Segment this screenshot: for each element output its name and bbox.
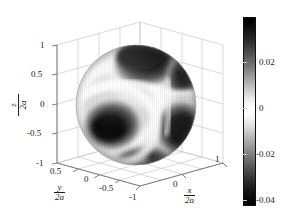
surface-plot-3d (0, 0, 283, 222)
z-tick-neg0p5: -0.5 (27, 129, 41, 138)
colorbar-tickmark-0p02 (243, 62, 247, 63)
colorbar-label-0: 0 (259, 103, 264, 113)
z-axis-label-numerator: z (9, 94, 18, 116)
z-tick-0p5: 0.5 (31, 70, 42, 79)
y-tick-0: 0 (84, 175, 89, 184)
colorbar-tickmark-neg0p04 (243, 200, 247, 201)
y-tick-0p5: 0.5 (50, 167, 61, 176)
y-axis-label: y 2a (54, 183, 65, 203)
y-tick-neg0p5: -0.5 (99, 184, 113, 193)
figure-canvas: 1 0.5 0 -0.5 -1 z 2a 0.5 0 -0.5 -1 y 2a … (0, 0, 283, 222)
colorbar-label-neg0p04: -0.04 (256, 195, 275, 205)
sphere-surface (64, 18, 214, 177)
z-axis-label: z 2a (9, 94, 29, 116)
colorbar-label-neg0p02: -0.02 (256, 149, 275, 159)
x-axis-label-numerator: x (184, 186, 195, 195)
y-tick-neg1: -1 (129, 193, 137, 202)
z-axis-label-denominator: 2a (19, 94, 29, 116)
x-axis-label-denominator: 2a (184, 195, 195, 205)
colorbar-tickmark-neg0p02 (243, 154, 247, 155)
y-axis-label-numerator: y (54, 183, 65, 192)
x-tick-1: 1 (215, 155, 220, 164)
colorbar-tickmark-0 (243, 108, 247, 109)
x-axis-label: x 2a (184, 186, 195, 206)
z-tick-0: 0 (40, 100, 45, 109)
z-tick-neg1: -1 (36, 159, 44, 168)
z-tick-1: 1 (40, 41, 45, 50)
y-axis-label-denominator: 2a (54, 192, 65, 202)
colorbar-gradient (243, 17, 256, 206)
x-tick-0: 0 (173, 180, 178, 189)
colorbar (243, 17, 256, 206)
colorbar-label-0p02: 0.02 (259, 57, 275, 67)
